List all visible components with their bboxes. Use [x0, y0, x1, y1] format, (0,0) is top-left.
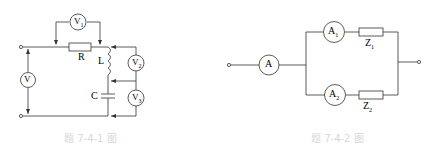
- terminal-top-left: [19, 45, 22, 48]
- impedance-Z1: [359, 28, 383, 36]
- label-V: V: [24, 74, 31, 84]
- figure1-caption: 题 7-4-1 图: [64, 130, 117, 145]
- terminal-right: [417, 60, 420, 63]
- label-R: R: [78, 51, 85, 62]
- inductor-L: [108, 47, 111, 75]
- label-V2: V2: [132, 57, 142, 69]
- label-V1: V1: [74, 16, 84, 28]
- terminal-bottom-left: [19, 114, 22, 117]
- label-Z1: Z1: [365, 37, 374, 50]
- label-V3: V3: [132, 92, 142, 104]
- label-A: A: [265, 58, 272, 69]
- figure2-circuit: [227, 22, 420, 106]
- terminal-left: [227, 63, 230, 66]
- figure1-circuit: [19, 14, 144, 118]
- label-L: L: [98, 55, 104, 66]
- figure2-caption: 题 7-4-2 图: [311, 130, 364, 145]
- resistor-R: [69, 43, 91, 51]
- label-Z2: Z2: [363, 100, 372, 113]
- impedance-Z2: [359, 91, 383, 99]
- label-A2: A2: [329, 88, 339, 101]
- label-A1: A1: [328, 25, 338, 38]
- circuit-diagrams: [0, 0, 428, 151]
- label-C: C: [91, 90, 98, 101]
